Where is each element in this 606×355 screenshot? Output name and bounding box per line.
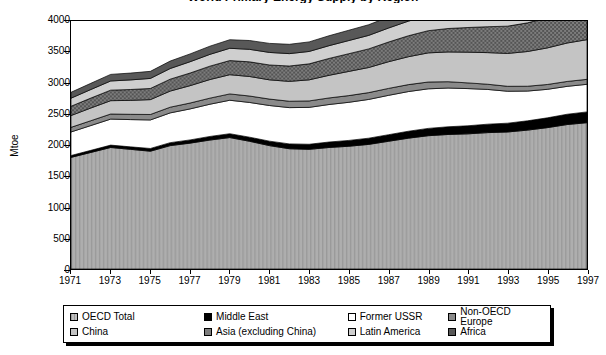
x-tick-mark	[429, 270, 430, 274]
x-tick-mark	[468, 270, 469, 274]
y-tick-mark	[64, 114, 70, 115]
x-tick-label: 1981	[249, 276, 289, 286]
x-tick-mark	[190, 270, 191, 274]
x-tick-label: 1991	[448, 276, 488, 286]
y-tick-mark	[64, 51, 70, 52]
chart-title: World Primary Energy Supply by Region	[0, 0, 606, 3]
x-tick-label: 1977	[170, 276, 210, 286]
y-tick-mark	[64, 239, 70, 240]
x-tick-label: 1985	[329, 276, 369, 286]
legend-item[interactable]: China	[70, 327, 204, 337]
x-tick-mark	[229, 270, 230, 274]
legend-swatch-icon	[70, 328, 78, 336]
y-axis-title: Mtoe	[9, 116, 20, 176]
legend-swatch-icon	[204, 328, 212, 336]
x-tick-mark	[548, 270, 549, 274]
legend-swatch-icon	[448, 313, 456, 321]
legend-swatch-icon	[348, 328, 356, 336]
chart-root: World Primary Energy Supply by Region Mt…	[0, 0, 606, 355]
legend-label: China	[82, 327, 108, 337]
legend-label: Middle East	[216, 312, 268, 322]
x-tick-label: 1987	[369, 276, 409, 286]
legend-item[interactable]: Non-OECD Europe	[448, 307, 544, 327]
y-tick-mark	[64, 145, 70, 146]
legend-item[interactable]: Former USSR	[348, 312, 449, 322]
legend-swatch-icon	[204, 313, 212, 321]
legend-item[interactable]: OECD Total	[70, 312, 204, 322]
legend-label: Latin America	[360, 327, 421, 337]
y-tick-mark	[64, 176, 70, 177]
x-tick-label: 1979	[209, 276, 249, 286]
legend-item[interactable]: Africa	[448, 327, 544, 337]
x-tick-label: 1971	[50, 276, 90, 286]
x-tick-mark	[508, 270, 509, 274]
legend-label: Asia (excluding China)	[216, 327, 316, 337]
legend-swatch-icon	[70, 313, 78, 321]
x-tick-label: 1997	[568, 276, 606, 286]
legend-item[interactable]: Asia (excluding China)	[204, 327, 348, 337]
y-tick-mark	[64, 83, 70, 84]
x-tick-label: 1989	[409, 276, 449, 286]
x-tick-mark	[70, 270, 71, 274]
plot-area	[70, 20, 588, 270]
x-tick-label: 1995	[528, 276, 568, 286]
legend-label: OECD Total	[82, 312, 135, 322]
x-tick-label: 1973	[90, 276, 130, 286]
x-tick-label: 1983	[289, 276, 329, 286]
legend-swatch-icon	[348, 313, 356, 321]
legend-label: Africa	[460, 327, 486, 337]
legend-item[interactable]: Latin America	[348, 327, 449, 337]
x-tick-mark	[309, 270, 310, 274]
legend-row-1: OECD TotalMiddle EastFormer USSRNon-OECD…	[70, 309, 544, 324]
legend-item[interactable]: Middle East	[204, 312, 348, 322]
chart-legend: OECD TotalMiddle EastFormer USSRNon-OECD…	[63, 305, 551, 343]
legend-label: Former USSR	[360, 312, 423, 322]
x-tick-mark	[269, 270, 270, 274]
legend-row-2: ChinaAsia (excluding China)Latin America…	[70, 324, 544, 339]
y-axis-labels: 05001000150020002500300035004000	[24, 0, 70, 355]
x-tick-mark	[349, 270, 350, 274]
x-tick-mark	[588, 270, 589, 274]
y-tick-mark	[64, 20, 70, 21]
x-tick-label: 1975	[130, 276, 170, 286]
x-tick-mark	[389, 270, 390, 274]
x-tick-label: 1993	[488, 276, 528, 286]
x-tick-mark	[110, 270, 111, 274]
y-tick-mark	[64, 208, 70, 209]
x-tick-mark	[150, 270, 151, 274]
stacked-area-svg	[71, 21, 587, 269]
legend-label: Non-OECD Europe	[460, 307, 544, 327]
legend-swatch-icon	[448, 328, 456, 336]
